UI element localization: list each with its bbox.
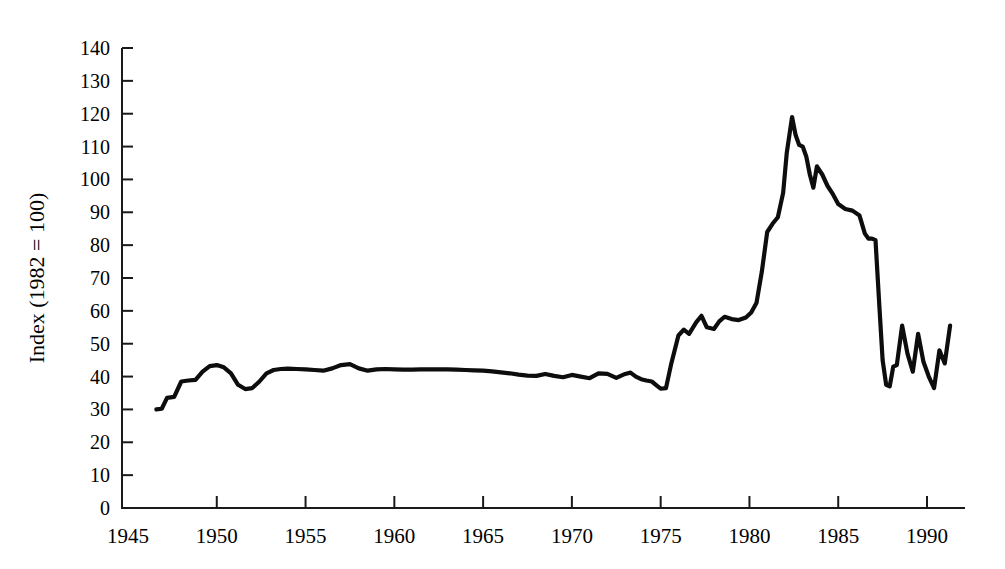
- x-tick-label: 1950: [196, 524, 238, 548]
- x-tick-label: 1980: [728, 524, 770, 548]
- y-tick-label: 130: [80, 70, 110, 92]
- data-series-line: [156, 117, 950, 409]
- y-axis-ticks: [122, 48, 133, 508]
- y-tick-label: 110: [81, 136, 110, 158]
- y-tick-label: 50: [90, 333, 110, 355]
- y-tick-label: 80: [90, 234, 110, 256]
- axis-lines: [122, 48, 965, 508]
- x-tick-label: 1945: [107, 524, 149, 548]
- line-chart: Index (1982 = 100) 010203040506070809010…: [0, 0, 1005, 569]
- x-tick-label: 1975: [640, 524, 682, 548]
- x-tick-label: 1955: [285, 524, 327, 548]
- x-tick-label: 1965: [462, 524, 504, 548]
- x-tick-label: 1970: [551, 524, 593, 548]
- y-tick-label: 70: [90, 267, 110, 289]
- chart-container: Index (1982 = 100) 010203040506070809010…: [0, 0, 1005, 569]
- x-tick-label: 1990: [906, 524, 948, 548]
- y-tick-label: 60: [90, 300, 110, 322]
- y-tick-label: 0: [100, 497, 110, 519]
- y-axis-title: Index (1982 = 100): [24, 193, 49, 364]
- y-tick-label: 120: [80, 103, 110, 125]
- x-axis-tick-labels: 1945195019551960196519701975198019851990: [107, 524, 948, 548]
- x-tick-label: 1960: [373, 524, 415, 548]
- y-axis-tick-labels: 0102030405060708090100110120130140: [80, 37, 110, 519]
- y-tick-label: 40: [90, 366, 110, 388]
- y-tick-label: 30: [90, 398, 110, 420]
- x-tick-label: 1985: [817, 524, 859, 548]
- x-axis-ticks: [217, 496, 927, 508]
- y-tick-label: 10: [90, 464, 110, 486]
- y-tick-label: 140: [80, 37, 110, 59]
- y-tick-label: 100: [80, 168, 110, 190]
- y-tick-label: 20: [90, 431, 110, 453]
- y-tick-label: 90: [90, 201, 110, 223]
